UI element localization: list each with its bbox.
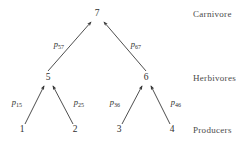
tier-label-producers: Producers	[193, 126, 232, 135]
tier-label-herbivores: Herbivores	[193, 74, 236, 83]
edge-label-e57: p57	[54, 40, 65, 51]
edge-label-e36: p36	[110, 98, 121, 109]
edge-label-subscript: 57	[58, 44, 64, 50]
edge-label-subscript: 25	[78, 102, 84, 108]
node-3: 3	[117, 125, 122, 135]
node-6: 6	[144, 73, 149, 83]
edge-label-subscript: 15	[16, 102, 22, 108]
food-web-diagram: 1234567 p15p25p36p46p57p67 CarnivoreHerb…	[0, 0, 245, 144]
edge-label-subscript: 67	[135, 44, 141, 50]
edge-label-e67: p67	[131, 40, 142, 51]
edge-label-subscript: 46	[175, 102, 181, 108]
edge-label-e25: p25	[74, 98, 85, 109]
node-2: 2	[73, 125, 78, 135]
node-5: 5	[46, 73, 51, 83]
edge-arrow-e25	[53, 86, 73, 124]
node-1: 1	[20, 125, 25, 135]
edge-arrow-e15	[25, 86, 44, 124]
node-4: 4	[170, 125, 175, 135]
edge-label-subscript: 36	[114, 102, 120, 108]
edge-label-e15: p15	[12, 98, 23, 109]
edge-arrow-e46	[151, 86, 170, 124]
edge-arrow-e36	[122, 86, 142, 124]
tier-label-carnivore: Carnivore	[193, 10, 232, 19]
edge-label-e46: p46	[171, 98, 182, 109]
node-7: 7	[95, 9, 100, 19]
